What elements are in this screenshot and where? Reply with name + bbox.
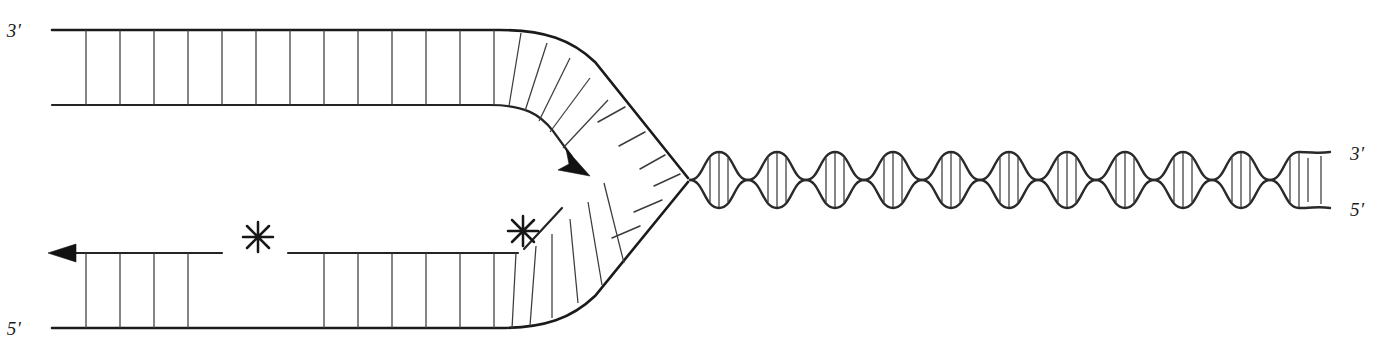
lagging-fragment-left-arrowhead [48,244,76,262]
leading-strand-arrowhead [558,149,590,176]
label-right-5prime: 5′ [1350,199,1365,220]
label-bottom-left-5prime: 5′ [7,318,22,339]
dna-diagram-canvas: 3′ 5′ 3′ 5′ [0,0,1384,352]
label-top-left-3prime: 3′ [6,20,22,41]
bottom-curved-rungs [530,183,624,326]
nick-marker-left [243,222,273,252]
bottom-template-backbone [52,182,688,328]
top-curved-rungs [509,33,608,148]
bottom-left-rungs [86,253,188,328]
leading-strand-backbone [52,105,572,157]
bottom-right-rungs [324,253,516,329]
label-right-3prime: 3′ [1349,143,1365,164]
rna-primer-stub [524,208,562,249]
dna-replication-fork-figure: 3′ 5′ 3′ 5′ DNA replication fork with le… [0,0,1384,352]
nick-marker-right [508,216,538,246]
parent-double-helix [690,152,1330,208]
top-straight-rungs [86,30,494,105]
bottom-duplex-arm [48,174,688,329]
top-duplex-arm [52,30,688,178]
